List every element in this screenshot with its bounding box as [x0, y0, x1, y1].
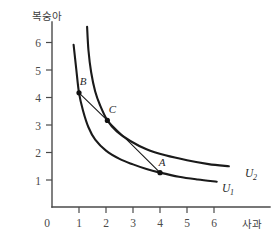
curve-label-u1-sub: 1 [230, 188, 234, 197]
y-tick-label-2: 2 [35, 147, 41, 159]
x-tick-label-6: 6 [211, 217, 217, 229]
x-tick-label-5: 5 [184, 217, 190, 229]
x-axis-ticks [79, 207, 214, 213]
point-dot-b [76, 90, 81, 95]
point-dot-c [105, 118, 110, 123]
y-axis-ticks [46, 43, 52, 181]
x-tick-label-3: 3 [130, 217, 136, 229]
y-tick-label-3: 3 [35, 120, 41, 132]
x-tick-label-0: 0 [44, 217, 50, 229]
curve-path-u2 [87, 27, 229, 166]
plot-layer: ABC [74, 27, 229, 182]
y-tick-label-4: 4 [35, 92, 41, 104]
x-tick-label-2: 2 [103, 217, 109, 229]
indifference-curve-chart: 6 5 4 3 2 1 0 1 2 3 4 5 6 복숭아 사과 ABC U 2… [0, 0, 280, 237]
y-tick-label-5: 5 [35, 65, 41, 77]
curve-label-u2: U 2 [245, 167, 257, 182]
y-tick-label-1: 1 [35, 175, 41, 187]
point-dot-a [157, 170, 162, 175]
point-label-c: C [109, 103, 117, 115]
curve-label-u2-sub: 2 [253, 173, 257, 182]
y-tick-label-6: 6 [35, 37, 41, 49]
x-tick-label-1: 1 [76, 217, 82, 229]
point-label-b: B [80, 75, 87, 87]
curve-label-u1: U 1 [222, 182, 234, 197]
point-label-a: A [158, 156, 166, 168]
x-tick-label-4: 4 [157, 217, 163, 229]
chart-svg: 6 5 4 3 2 1 0 1 2 3 4 5 6 복숭아 사과 ABC U 2… [0, 0, 280, 237]
y-axis-title: 복숭아 [32, 10, 62, 22]
x-axis-title: 사과 [242, 218, 262, 230]
